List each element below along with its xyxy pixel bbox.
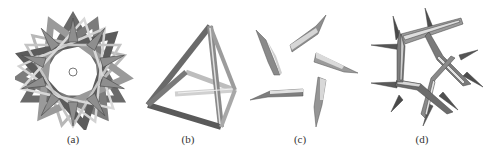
caption-b: (b) — [173, 133, 203, 145]
tetrahedron-frame-figure — [138, 0, 248, 130]
caption-a: (a) — [58, 133, 88, 145]
caption-c: (c) — [285, 133, 315, 145]
panel-d — [363, 0, 497, 130]
bar-piece — [256, 30, 282, 75]
panel-c — [238, 0, 368, 130]
panel-a — [15, 0, 135, 130]
bar-piece — [314, 52, 358, 73]
compound-star-figure — [15, 0, 135, 130]
panel-b — [138, 0, 248, 130]
caption-d: (d) — [407, 133, 437, 145]
bar-piece — [314, 77, 326, 127]
pentagonal-ring-figure — [363, 0, 497, 130]
bar-piece — [290, 15, 326, 52]
separated-bars-figure — [238, 0, 368, 130]
bar-piece — [250, 89, 303, 100]
